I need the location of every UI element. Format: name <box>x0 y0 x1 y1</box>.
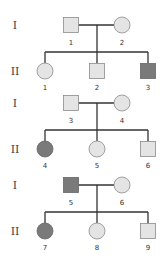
individual-number: 1 <box>43 84 47 92</box>
affected-male-symbol <box>141 64 156 79</box>
family-3: III56789 <box>11 177 156 252</box>
unaffected-female-symbol <box>89 141 105 157</box>
affected-male-symbol <box>64 178 79 193</box>
unaffected-male-symbol <box>64 96 79 111</box>
individual-number: 6 <box>120 199 125 207</box>
family-1: III12123 <box>11 17 156 92</box>
individual-number: 9 <box>146 244 150 252</box>
individual-number: 5 <box>69 199 73 207</box>
generation-label: I <box>13 97 17 110</box>
individual-number: 4 <box>43 162 48 170</box>
individual-number: 8 <box>95 244 99 252</box>
unaffected-female-symbol <box>114 95 130 111</box>
unaffected-female-symbol <box>37 63 53 79</box>
unaffected-male-symbol <box>141 142 156 157</box>
individual-number: 5 <box>95 162 99 170</box>
generation-label: II <box>11 65 20 78</box>
individual-number: 3 <box>146 84 150 92</box>
generation-label: I <box>13 179 17 192</box>
affected-female-symbol <box>37 141 53 157</box>
unaffected-male-symbol <box>90 64 105 79</box>
individual-number: 4 <box>120 117 125 125</box>
individual-number: 1 <box>69 39 73 47</box>
generation-label: I <box>13 19 17 32</box>
individual-number: 7 <box>43 244 47 252</box>
generation-label: II <box>11 225 20 238</box>
family-2: III34456 <box>11 95 156 170</box>
individual-number: 3 <box>69 117 73 125</box>
individual-number: 2 <box>95 84 99 92</box>
unaffected-female-symbol <box>114 17 130 33</box>
unaffected-male-symbol <box>64 18 79 33</box>
affected-female-symbol <box>37 223 53 239</box>
unaffected-female-symbol <box>114 177 130 193</box>
generation-label: II <box>11 143 20 156</box>
individual-number: 2 <box>120 39 124 47</box>
individual-number: 6 <box>146 162 151 170</box>
pedigree-diagram: III12123III34456III56789 <box>0 0 164 260</box>
unaffected-female-symbol <box>89 223 105 239</box>
unaffected-male-symbol <box>141 224 156 239</box>
